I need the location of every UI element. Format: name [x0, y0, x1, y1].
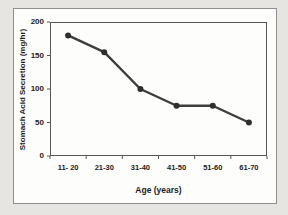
x-tick-label: 61-70: [231, 163, 267, 173]
x-tick-label: 11- 20: [50, 163, 86, 173]
chart-frame: Stomach Acid Secretion (mg/hr) 050100150…: [13, 8, 277, 204]
x-tick-label: 41-50: [159, 163, 195, 173]
y-tick-label: 50: [14, 118, 44, 128]
x-axis-title: Age (years): [50, 185, 267, 195]
data-point-marker: [246, 120, 252, 126]
x-tick-label: 31-40: [122, 163, 158, 173]
data-point-marker: [137, 86, 143, 92]
y-tick-label: 100: [14, 84, 44, 94]
y-tick-label: 0: [14, 151, 44, 161]
data-point-marker: [210, 103, 216, 109]
y-tick-label: 150: [14, 51, 44, 61]
data-point-marker: [101, 49, 107, 55]
y-tick-label: 200: [14, 17, 44, 27]
data-point-marker: [174, 103, 180, 109]
x-tick-label: 21-30: [86, 163, 122, 173]
data-point-marker: [65, 32, 71, 38]
line-chart: [50, 22, 267, 156]
x-tick-label: 51-60: [195, 163, 231, 173]
